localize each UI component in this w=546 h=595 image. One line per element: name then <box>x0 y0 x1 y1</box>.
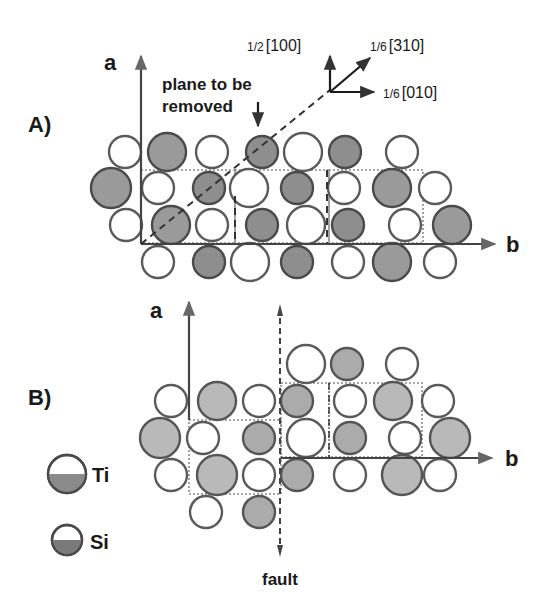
atom-open <box>424 246 456 278</box>
atom-open <box>110 209 142 241</box>
atom-open <box>155 459 187 491</box>
atom-ti <box>198 382 236 420</box>
vector-010-label: 1/6[010] <box>383 84 437 101</box>
atom-open <box>109 136 141 168</box>
atom-open <box>243 385 275 417</box>
a-axis-label: a <box>104 50 117 75</box>
atom-ti <box>430 418 470 458</box>
atom-open <box>196 136 228 168</box>
atom-ti <box>373 169 411 207</box>
fault-label: fault <box>262 570 298 589</box>
atom-ti <box>148 133 186 171</box>
fault-bottom-arrow-icon <box>277 545 283 557</box>
legend: Ti Si <box>48 455 109 555</box>
legend-item-ti: Ti <box>48 455 109 493</box>
burgers-vector-triad: 1/2[100] 1/6[310] 1/6[010] <box>247 37 437 101</box>
ti-legend-label: Ti <box>92 464 109 486</box>
atom-open <box>419 172 451 204</box>
atom-open <box>284 133 322 171</box>
atom-open <box>334 385 366 417</box>
b-axis-label: b <box>506 232 519 257</box>
panel-a: A) a b plane to be removed 1/2[100] <box>28 37 519 281</box>
atom-open <box>386 136 418 168</box>
fault-top-arrow-icon <box>277 304 283 316</box>
atom-open <box>196 209 228 241</box>
plane-note-line2: removed <box>162 97 233 116</box>
atom-si <box>246 209 278 241</box>
si-legend-label: Si <box>90 531 109 553</box>
atom-open <box>190 496 222 528</box>
atom-ti <box>382 455 422 495</box>
atom-si <box>281 172 313 204</box>
atom-si <box>193 246 225 278</box>
atom-open <box>334 459 366 491</box>
atom-open <box>386 348 418 380</box>
atom-si <box>281 459 313 491</box>
atom-open <box>287 206 325 244</box>
vector-310-arrow <box>330 58 370 92</box>
legend-item-si: Si <box>52 525 109 555</box>
atom-ti <box>374 382 412 420</box>
b-axis-label-b: b <box>505 446 518 471</box>
plane-note-line1: plane to be <box>162 75 252 94</box>
a-axis-label-b: a <box>150 298 163 323</box>
atom-ti <box>373 243 411 281</box>
atom-si <box>331 348 363 380</box>
atom-open <box>231 243 269 281</box>
atom-si <box>243 422 275 454</box>
panel-a-label: A) <box>28 112 51 137</box>
panel-a-atoms <box>91 133 471 281</box>
atom-open <box>389 422 421 454</box>
vector-310-label: 1/6[310] <box>370 37 424 54</box>
atom-open <box>187 422 219 454</box>
panel-b-label: B) <box>28 385 51 410</box>
atom-si <box>246 136 278 168</box>
atom-open <box>142 172 174 204</box>
atom-open <box>287 345 325 383</box>
atom-open <box>287 419 325 457</box>
vector-100-label: 1/2[100] <box>247 37 301 54</box>
atom-ti <box>140 418 180 458</box>
atom-ti <box>197 455 237 495</box>
atom-open <box>424 459 456 491</box>
crystal-fault-diagram: A) a b plane to be removed 1/2[100] <box>0 0 546 595</box>
atom-open <box>332 246 364 278</box>
atom-si <box>329 136 361 168</box>
atom-ti <box>433 206 471 244</box>
atom-open <box>422 385 454 417</box>
atom-open <box>389 209 421 241</box>
atom-open <box>155 385 187 417</box>
atom-ti <box>91 168 131 208</box>
atom-open <box>243 459 275 491</box>
atom-open <box>328 172 360 204</box>
atom-ti <box>152 206 190 244</box>
atom-si <box>281 385 313 417</box>
atom-si <box>243 496 275 528</box>
atom-si <box>281 246 313 278</box>
atom-open <box>142 246 174 278</box>
atom-si <box>334 422 366 454</box>
atom-si <box>332 209 364 241</box>
